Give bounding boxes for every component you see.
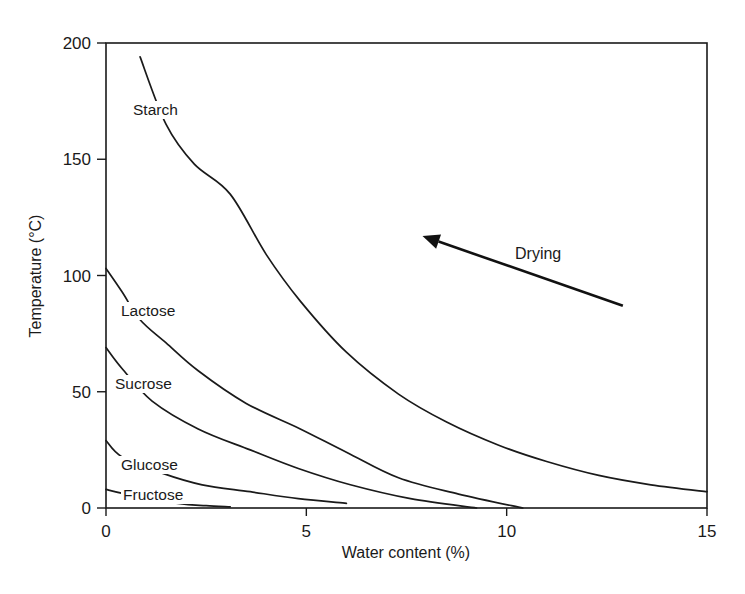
y-tick-label: 100 [63, 267, 91, 286]
curve-label-starch: Starch [133, 101, 178, 118]
y-tick-label: 200 [63, 34, 91, 53]
drying-annotation: Drying [423, 234, 623, 305]
x-tick-label: 5 [302, 522, 311, 541]
phase-diagram-chart: 051015 050100150200 Water content (%) Te… [0, 0, 745, 594]
curve-label-lactose: Lactose [121, 302, 175, 319]
x-tick-label: 10 [497, 522, 516, 541]
curve-labels: StarchLactoseSucroseGlucoseFructose [115, 101, 183, 503]
y-tick-label: 0 [82, 499, 91, 518]
curve-label-glucose: Glucose [121, 456, 178, 473]
x-axis-title: Water content (%) [342, 544, 470, 561]
y-tick-label: 50 [72, 383, 91, 402]
curve-label-sucrose: Sucrose [115, 375, 172, 392]
curve-starch [140, 57, 707, 492]
x-axis-ticks: 051015 [101, 508, 716, 541]
curve-label-fructose: Fructose [123, 486, 183, 503]
curves [106, 57, 707, 508]
x-tick-label: 15 [698, 522, 717, 541]
drying-label: Drying [515, 245, 561, 262]
x-tick-label: 0 [101, 522, 110, 541]
y-axis-title: Temperature (°C) [27, 215, 44, 338]
y-axis-ticks: 050100150200 [63, 34, 106, 518]
plot-frame [106, 43, 707, 508]
arrowhead-icon [423, 234, 442, 248]
y-tick-label: 150 [63, 150, 91, 169]
